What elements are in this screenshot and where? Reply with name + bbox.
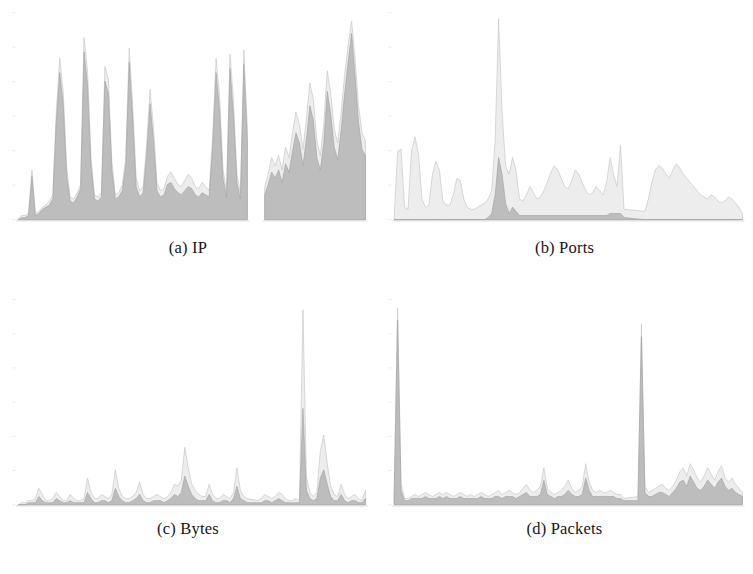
series-background <box>394 19 742 220</box>
caption-a: (a) IP <box>169 240 207 257</box>
area-segment <box>18 310 365 505</box>
caption-c: (c) Bytes <box>157 521 219 538</box>
area-chart-c <box>0 287 376 515</box>
figure-grid: (a) IP (b) Ports (c) Bytes (d) Packets <box>0 0 753 574</box>
area-segment <box>394 320 742 505</box>
subfigure-a: (a) IP <box>0 0 376 287</box>
plot-area-c <box>0 287 376 515</box>
y-axis-ticks <box>388 300 392 505</box>
plot-area-a <box>0 0 376 230</box>
area-segment <box>18 52 247 220</box>
area-chart-a <box>0 0 376 230</box>
subfigure-d: (d) Packets <box>376 287 753 574</box>
area-chart-b <box>376 0 753 230</box>
area-segment <box>394 308 742 505</box>
y-axis-ticks <box>388 13 392 220</box>
subfigure-c: (c) Bytes <box>0 287 376 574</box>
series-background <box>18 310 365 505</box>
subfigure-b: (b) Ports <box>376 0 753 287</box>
series-foreground <box>394 320 742 505</box>
area-segment <box>394 19 742 220</box>
y-axis-ticks <box>12 300 16 505</box>
y-axis-ticks <box>12 13 16 220</box>
series-foreground <box>18 33 365 219</box>
area-chart-d <box>376 287 753 515</box>
plot-area-b <box>376 0 753 230</box>
series-background <box>394 308 742 505</box>
caption-b: (b) Ports <box>535 240 594 257</box>
caption-d: (d) Packets <box>527 521 603 538</box>
plot-area-d <box>376 287 753 515</box>
